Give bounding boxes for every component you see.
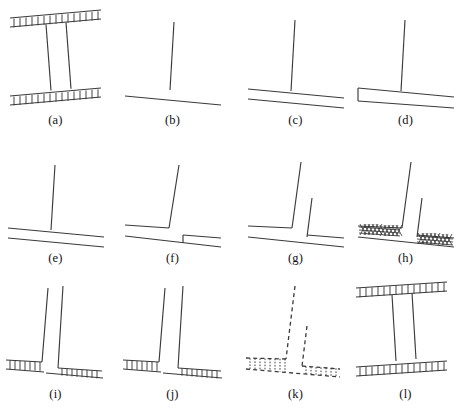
panel-a-art xyxy=(0,2,111,114)
panel-b-label: (b) xyxy=(117,112,228,128)
panel-g: (g) xyxy=(240,140,351,278)
plate-top-right xyxy=(307,235,344,238)
web-line xyxy=(51,165,55,230)
panel-l-label: (l) xyxy=(350,386,458,402)
web-line-short xyxy=(417,198,422,237)
panel-i-art xyxy=(0,276,111,388)
web xyxy=(392,293,416,361)
panel-j-label: (j) xyxy=(117,386,228,402)
web-line xyxy=(170,22,174,90)
panel-k: (k) xyxy=(240,276,351,414)
panel-d-label: (d) xyxy=(350,112,458,128)
base-flange-left xyxy=(6,360,44,372)
panel-a: (a) xyxy=(0,2,111,140)
panel-e-art xyxy=(0,140,111,252)
panel-d: (d) xyxy=(350,2,458,140)
plate-top-line xyxy=(358,88,454,97)
web-line xyxy=(291,20,295,91)
web-line xyxy=(401,20,405,91)
panel-i-label: (i) xyxy=(0,386,111,402)
plate-top-left xyxy=(125,225,169,228)
panel-c-label: (c) xyxy=(240,112,351,128)
panel-f: (f) xyxy=(117,140,228,278)
plate-bottom-line xyxy=(246,369,340,377)
panel-c-art xyxy=(240,2,351,114)
plate-top-left xyxy=(248,226,292,228)
cross-hatch-left xyxy=(359,224,402,236)
plate-top-right xyxy=(183,235,221,238)
plate-top-line xyxy=(8,228,104,237)
plate-top-line xyxy=(248,89,344,98)
base-line xyxy=(125,96,221,105)
panel-l: (l) xyxy=(350,276,458,414)
web-line-right xyxy=(178,286,183,368)
web-line-left xyxy=(42,288,48,362)
panel-l-art xyxy=(350,276,458,388)
panel-h-art xyxy=(350,140,458,252)
cross-hatch-right xyxy=(417,233,453,245)
panel-a-label: (a) xyxy=(0,112,111,128)
panel-h-label: (h) xyxy=(350,250,458,266)
bottom-flange xyxy=(356,361,447,376)
web-line-right xyxy=(58,286,63,368)
panel-f-label: (f) xyxy=(117,250,228,266)
panel-f-art xyxy=(117,140,228,252)
panel-d-art xyxy=(350,2,458,114)
top-flange xyxy=(356,282,447,297)
web-line-tall xyxy=(402,162,411,228)
base-flange-right xyxy=(163,368,222,379)
web-line-short xyxy=(307,198,312,237)
panel-b-art xyxy=(117,2,228,114)
base-flange-left xyxy=(123,360,161,372)
panel-e: (e) xyxy=(0,140,111,278)
base-flange-right xyxy=(46,368,103,378)
plate-bottom-line xyxy=(358,101,454,108)
top-flange xyxy=(10,10,101,27)
panel-g-label: (g) xyxy=(240,250,351,266)
panel-i: (i) xyxy=(0,276,111,414)
web-line-short xyxy=(302,326,307,366)
bottom-flange xyxy=(10,88,101,105)
panel-k-label: (k) xyxy=(240,386,351,402)
web-line xyxy=(169,165,179,228)
panel-j: (j) xyxy=(117,276,228,414)
panel-h: (h) xyxy=(350,140,458,278)
panel-k-art xyxy=(240,276,351,388)
web-line-tall xyxy=(286,286,295,359)
plate-bottom-line xyxy=(8,238,104,247)
panel-g-art xyxy=(240,140,351,252)
web xyxy=(46,22,71,90)
web-line-left xyxy=(159,288,165,362)
plate-bottom-line xyxy=(248,99,344,108)
plate-bottom-line xyxy=(248,237,344,247)
panel-e-label: (e) xyxy=(0,250,111,266)
plate-bottom-line xyxy=(125,236,221,247)
web-line-tall xyxy=(292,162,301,228)
panel-b: (b) xyxy=(117,2,228,140)
panel-c: (c) xyxy=(240,2,351,140)
panel-j-art xyxy=(117,276,228,388)
